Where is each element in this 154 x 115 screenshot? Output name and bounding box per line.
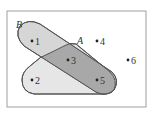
- set-a-label: A: [76, 35, 84, 46]
- point-dot-icon: [31, 40, 34, 43]
- point-label: 5: [100, 75, 105, 86]
- point-label: 2: [35, 75, 40, 86]
- point-dot-icon: [127, 59, 130, 62]
- point-dot-icon: [31, 79, 34, 82]
- point-dot-icon: [96, 40, 99, 43]
- point-label: 3: [71, 55, 76, 66]
- point-dot-icon: [67, 59, 70, 62]
- point-label: 6: [131, 55, 136, 66]
- point-label: 1: [35, 36, 40, 47]
- venn-diagram: B A 1 2 3 4 5 6: [0, 0, 154, 115]
- point-label: 4: [100, 36, 105, 47]
- set-b-label: B: [16, 19, 22, 30]
- point-dot-icon: [96, 79, 99, 82]
